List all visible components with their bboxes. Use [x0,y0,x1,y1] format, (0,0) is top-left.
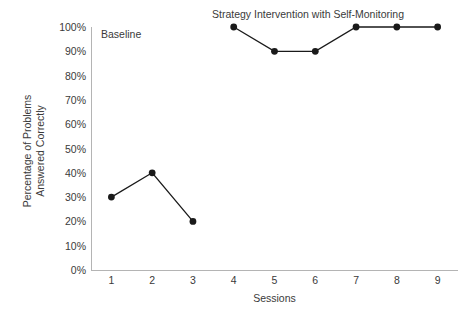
data-point [108,194,115,201]
x-axis-tick-label: 1 [96,274,126,287]
x-axis-tick-label: 8 [382,274,412,287]
x-axis-tick-labels: 123456789 [91,274,458,290]
y-axis-tick-label: 20% [48,216,86,227]
data-point [271,48,278,55]
data-series-svg [91,27,458,270]
series-intervention [230,24,441,55]
data-point [434,24,441,31]
series-line [234,27,438,51]
x-axis-tick-label: 2 [137,274,167,287]
intervention-phase-label: Strategy Intervention with Self-Monitori… [212,8,404,21]
chart-container: Percentage of Problems Answered Correctl… [0,0,475,317]
y-axis-tick-label: 100% [48,22,86,33]
data-point [393,24,400,31]
data-point [230,24,237,31]
plot-area [91,27,458,270]
x-axis-tick-label: 9 [423,274,453,287]
data-point [190,218,197,225]
data-point [312,48,319,55]
y-axis-tick-label: 60% [48,119,86,130]
y-axis-tick-label: 30% [48,192,86,203]
x-axis-tick-label: 4 [219,274,249,287]
y-axis-tick-label: 0% [48,265,86,276]
series-baseline [108,169,196,224]
baseline-phase-label: Baseline [101,28,141,41]
x-axis-tick-label: 7 [341,274,371,287]
x-axis-tick-label: 6 [300,274,330,287]
y-axis-tick-label: 50% [48,143,86,154]
y-axis-title-line-1: Percentage of Problems [21,95,34,208]
y-axis-tick-label: 70% [48,94,86,105]
data-point [353,24,360,31]
y-axis-tick-label: 80% [48,70,86,81]
y-axis-title: Percentage of Problems Answered Correctl… [17,41,51,261]
y-axis-tick-label: 90% [48,46,86,57]
x-axis-line [91,270,458,271]
x-axis-tick-label: 3 [178,274,208,287]
data-point [149,169,156,176]
series-line [111,173,193,222]
y-axis-tick-labels: 0%10%20%30%40%50%60%70%80%90%100% [48,22,86,270]
x-axis-title: Sessions [91,292,458,304]
x-axis-tick-label: 5 [260,274,290,287]
y-axis-title-line-2: Answered Correctly [34,105,47,197]
y-axis-tick-label: 10% [48,240,86,251]
y-axis-tick-label: 40% [48,167,86,178]
